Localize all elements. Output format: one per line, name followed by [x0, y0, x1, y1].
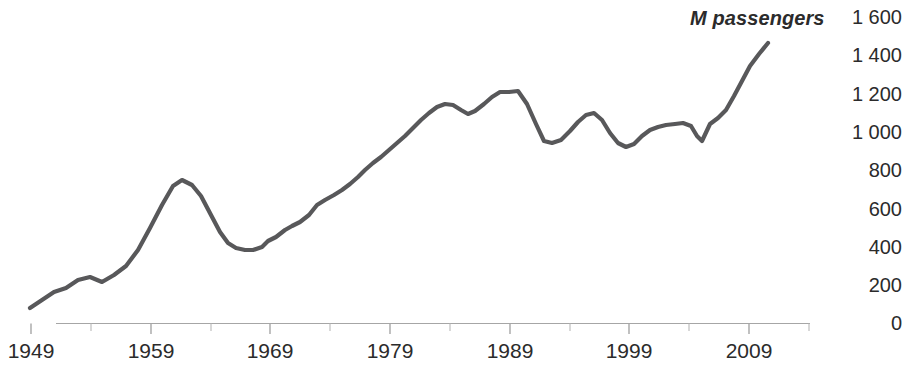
y-tick-label-1200: 1 200 [830, 84, 902, 104]
x-axis-major-ticks [31, 324, 749, 335]
x-axis-minor-ticks [91, 324, 809, 332]
x-tick-label-1969: 1969 [247, 340, 294, 362]
y-tick-label-1600: 1 600 [830, 7, 902, 27]
y-tick-label-400: 400 [830, 237, 902, 257]
x-tick-label-1959: 1959 [128, 340, 175, 362]
y-tick-label-1400: 1 400 [830, 45, 902, 65]
chart-axis-title: M passengers [690, 8, 820, 28]
data-series-line [30, 43, 768, 308]
x-tick-label-1989: 1989 [487, 340, 534, 362]
y-tick-label-1000: 1 000 [830, 122, 902, 142]
x-tick-label-1999: 1999 [606, 340, 653, 362]
line-chart-plot [0, 0, 902, 374]
y-tick-label-800: 800 [830, 160, 902, 180]
x-tick-label-1979: 1979 [367, 340, 414, 362]
x-tick-label-1949: 1949 [8, 340, 55, 362]
chart-container: M passengers 1 600 1 400 1 200 1 000 800… [0, 0, 902, 374]
y-tick-label-0: 0 [830, 313, 902, 333]
x-tick-label-2009: 2009 [726, 340, 773, 362]
y-tick-label-600: 600 [830, 199, 902, 219]
y-tick-label-200: 200 [830, 275, 902, 295]
